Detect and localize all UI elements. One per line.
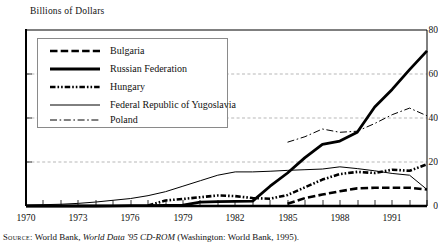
legend-row-russian-federation: Russian Federation [38,60,229,78]
legend-swatch-bulgaria [48,42,102,60]
legend-swatch-russian-federation [48,60,102,78]
source-label: Source: [3,232,33,242]
series-line-bulgaria [288,188,427,204]
legend-label-yugoslavia: Federal Republic of Yugoslavia [110,98,236,112]
legend-row-hungary: Hungary [38,78,229,96]
chart-figure: Billions of Dollars 80 60 40 20 0 1970 1… [0,0,438,248]
legend-swatch-hungary [48,78,102,96]
source-note: Source: World Bank, World Data '95 CD-RO… [3,232,299,242]
source-title: World Data '95 CD-ROM [83,232,175,242]
series-line-poland [288,108,427,142]
legend-row-bulgaria: Bulgaria [38,42,229,60]
legend-row-poland: Poland [38,111,229,129]
legend-label-poland: Poland [110,113,138,127]
legend: Bulgaria Russian Federation Hungary Fede… [37,38,228,128]
source-text-after: (Washington: World Bank, 1995). [177,232,299,242]
legend-label-hungary: Hungary [110,80,145,94]
legend-label-russian-federation: Russian Federation [110,62,187,76]
legend-label-bulgaria: Bulgaria [110,44,144,58]
source-text-before: World Bank, [35,232,81,242]
legend-swatch-poland [48,111,102,129]
